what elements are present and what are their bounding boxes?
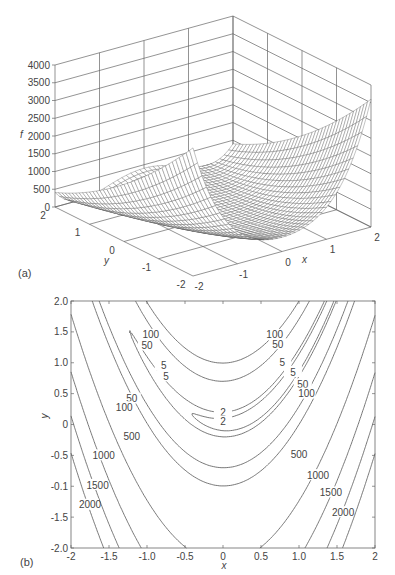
contour-label: 5 bbox=[290, 367, 296, 378]
x-tick-label: 1.0 bbox=[292, 551, 306, 562]
x-tick-label: 2 bbox=[372, 551, 378, 562]
contour-plot-panel-b: 1005055501001005055501002250010001500200… bbox=[0, 290, 395, 575]
surface-mesh bbox=[55, 99, 371, 240]
z-tick-label: 3500 bbox=[28, 77, 51, 88]
x-tick-label: -2 bbox=[195, 281, 204, 290]
contour-label: 1000 bbox=[307, 470, 330, 481]
contour-line-500 bbox=[71, 314, 375, 548]
x-axis-label: x bbox=[301, 254, 308, 265]
contour-label: 5 bbox=[163, 371, 169, 382]
y-tick-label: 1.0 bbox=[54, 357, 68, 368]
y-tick-label: -2.0 bbox=[51, 543, 69, 554]
contour-label: 500 bbox=[291, 449, 308, 460]
y-tick-label: 0 bbox=[109, 245, 115, 256]
contour-label: 2 bbox=[220, 416, 226, 427]
panel-label-a: (a) bbox=[18, 267, 31, 279]
panel-label-b: (b) bbox=[20, 556, 33, 568]
x-tick-label: -1.5 bbox=[100, 551, 118, 562]
y-tick-label: 1 bbox=[75, 227, 81, 238]
contour-label: 1500 bbox=[320, 487, 343, 498]
contour-line-1000 bbox=[71, 372, 375, 548]
figure: 05001000150020002500300035004000-2-1012-… bbox=[0, 0, 395, 575]
x-tick-label: -0.5 bbox=[176, 551, 194, 562]
x-tick-label: 0 bbox=[285, 257, 291, 268]
y-axis-label: y bbox=[39, 413, 50, 420]
x-tick-label: -1.0 bbox=[138, 551, 156, 562]
y-tick-label: -0.5 bbox=[51, 450, 69, 461]
z-tick-label: 2500 bbox=[28, 113, 51, 124]
z-tick-label: 4000 bbox=[28, 60, 51, 71]
contour-label: 1000 bbox=[93, 450, 116, 461]
contour-label: 50 bbox=[272, 339, 284, 350]
contour-label: 2000 bbox=[79, 499, 102, 510]
x-tick-label: 1 bbox=[330, 244, 336, 255]
contour-label: 100 bbox=[298, 388, 315, 399]
x-tick-label: 0.5 bbox=[254, 551, 268, 562]
z-tick-label: 1500 bbox=[28, 148, 51, 159]
y-tick-label: 0 bbox=[62, 419, 68, 430]
y-tick-label: 0.5 bbox=[54, 388, 68, 399]
z-axis-label: f bbox=[20, 129, 24, 140]
y-tick-label: -1.5 bbox=[51, 512, 69, 523]
contour-line-2000 bbox=[71, 453, 375, 548]
contour-label: 50 bbox=[141, 340, 153, 351]
surface-plot-panel-a: 05001000150020002500300035004000-2-1012-… bbox=[0, 0, 395, 290]
z-tick-label: 2000 bbox=[28, 131, 51, 142]
contour-axes-frame: -2-1.5-1.0-0.500.51.01.522.01.51.00.50-0… bbox=[39, 296, 378, 572]
x-tick-label: 1.5 bbox=[330, 551, 344, 562]
contour-line-1500 bbox=[71, 416, 375, 548]
contour-label: 5 bbox=[161, 360, 167, 371]
y-tick-label: 2 bbox=[40, 210, 46, 221]
y-axis-label: y bbox=[103, 255, 110, 266]
y-tick-label: -0.1 bbox=[51, 481, 69, 492]
y-tick-label: -2 bbox=[177, 279, 186, 290]
z-tick-label: 1000 bbox=[28, 166, 51, 177]
contour-label: 2000 bbox=[332, 507, 355, 518]
contour-label: 100 bbox=[116, 402, 133, 413]
z-tick-label: 500 bbox=[33, 184, 50, 195]
contour-labels: 1005055501001005055501002250010001500200… bbox=[79, 329, 355, 518]
x-axis-label: x bbox=[221, 560, 228, 571]
contour-label: 100 bbox=[142, 329, 159, 340]
contour-label: 500 bbox=[123, 431, 140, 442]
z-tick-label: 3000 bbox=[28, 95, 51, 106]
x-tick-label: -1 bbox=[239, 269, 248, 280]
x-tick-label: 2 bbox=[374, 232, 380, 243]
contour-label: 1500 bbox=[86, 480, 109, 491]
y-tick-label: 2.0 bbox=[54, 296, 68, 307]
y-tick-label: 1.5 bbox=[54, 326, 68, 337]
y-tick-label: -1 bbox=[142, 262, 151, 273]
